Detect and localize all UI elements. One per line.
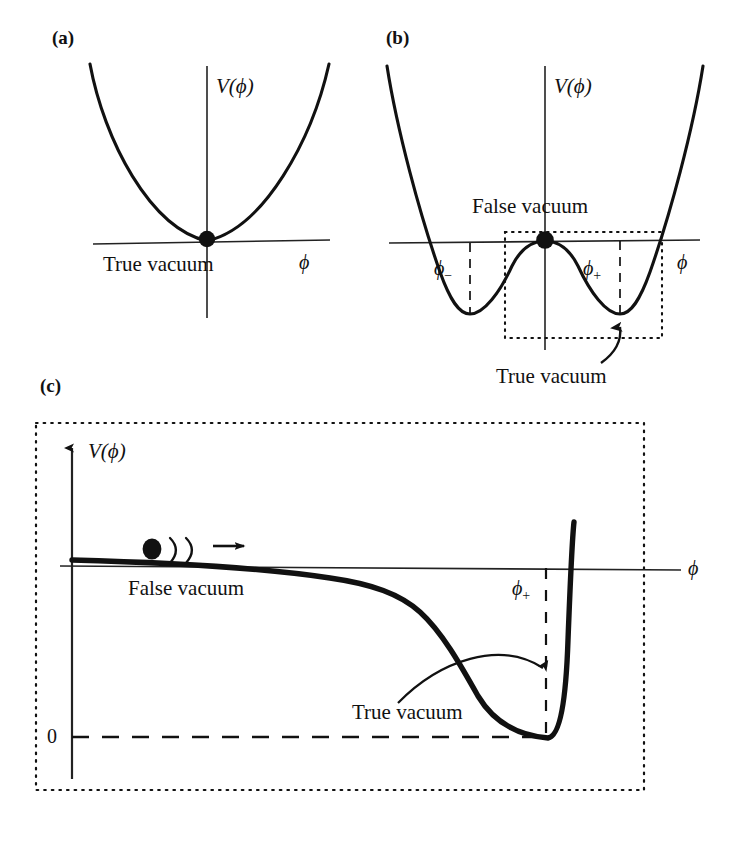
- panel-c-zero-label: 0: [47, 726, 57, 746]
- panel-c-phi-axis-label: ϕ: [688, 558, 698, 578]
- panel-b-phi-axis-label: ϕ: [677, 252, 687, 272]
- phi-plus-subscript: +: [593, 268, 601, 283]
- phi-minus-base: ϕ: [434, 257, 444, 279]
- panel-a-graphics: [90, 64, 330, 318]
- panel-b-false-vacuum-dot: [536, 231, 554, 249]
- phi-plus-subscript-c: +: [522, 588, 530, 603]
- panel-a-phi-axis-label: ϕ: [299, 252, 309, 272]
- panel-b-true-vacuum-label: True vacuum: [496, 366, 607, 387]
- panel-c-false-vacuum-label: False vacuum: [128, 578, 244, 599]
- panel-b-tag: (b): [386, 28, 409, 47]
- vacuum-potential-figure: (a) V(ϕ) ϕ True vacuum (b) V(ϕ) ϕ False …: [0, 0, 738, 843]
- panel-c-phi-plus-label: ϕ+: [512, 578, 530, 603]
- panel-a-potential-curve: [90, 64, 329, 241]
- panel-c-v-axis-label: V(ϕ): [88, 441, 126, 462]
- phi-plus-base-c: ϕ: [512, 577, 522, 599]
- panel-c-tag: (c): [40, 376, 61, 395]
- panel-c-rolling-ball: [143, 538, 162, 559]
- panel-b-phi-plus-label: ϕ+: [583, 258, 601, 283]
- panel-b-inset-box: [505, 232, 662, 338]
- panel-c-graphics: [36, 423, 681, 790]
- panel-c-motion-arc-2: [186, 538, 192, 563]
- panel-a-tag: (a): [52, 28, 74, 47]
- phi-minus-subscript: −: [444, 268, 452, 283]
- panel-b-false-vacuum-label: False vacuum: [472, 196, 588, 217]
- panel-c-phi-axis: [60, 566, 681, 570]
- panel-c-motion-arc-1: [170, 538, 176, 563]
- panel-c-true-vacuum-label: True vacuum: [352, 702, 463, 723]
- panel-b-true-vacuum-arrow: [601, 327, 620, 363]
- panel-a-v-axis-label: V(ϕ): [216, 76, 254, 97]
- panel-b-phi-minus-label: ϕ−: [434, 258, 452, 283]
- panel-a-vacuum-dot: [199, 231, 215, 247]
- panel-a-true-vacuum-label: True vacuum: [103, 254, 214, 275]
- panel-b-v-axis-label: V(ϕ): [554, 76, 592, 97]
- phi-plus-base: ϕ: [583, 257, 593, 279]
